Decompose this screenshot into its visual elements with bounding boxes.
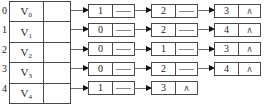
index-label: 0 <box>0 1 9 20</box>
list-node: 2 <box>151 23 198 37</box>
vertex-name: V <box>21 5 29 17</box>
vertex-subscript: 2 <box>29 52 33 60</box>
head-arrow <box>71 29 88 30</box>
pointer-stub <box>116 88 131 89</box>
vertex-subscript: 0 <box>29 11 33 19</box>
node-next-pointer <box>113 24 134 36</box>
head-pointer-cell <box>43 83 70 103</box>
node-next-pointer <box>113 5 134 17</box>
vertex-subscript: 1 <box>29 32 33 40</box>
vertex-subscript: 4 <box>29 93 33 101</box>
pointer-stub <box>116 30 131 31</box>
index-label: 2 <box>0 40 9 59</box>
node-data: 0 <box>89 63 113 75</box>
node-data: 1 <box>152 43 176 55</box>
node-arrow <box>134 68 151 69</box>
table-row: V1 <box>10 22 71 42</box>
list-node: 2 <box>151 4 198 18</box>
null-terminator: ∧ <box>239 43 260 55</box>
pointer-stub <box>179 11 194 12</box>
node-next-pointer <box>176 5 197 17</box>
list-node: 0 <box>88 42 135 56</box>
node-arrow <box>134 49 151 50</box>
head-arrow <box>71 88 88 89</box>
null-terminator: ∧ <box>239 24 260 36</box>
node-arrow <box>197 68 214 69</box>
list-node: 4 ∧ <box>214 62 261 76</box>
null-terminator: ∧ <box>176 82 197 94</box>
list-node: 4 ∧ <box>214 23 261 37</box>
head-arrow <box>71 68 88 69</box>
node-next-pointer <box>113 43 134 55</box>
list-node: 1 <box>88 4 135 18</box>
node-arrow <box>134 10 151 11</box>
node-data: 0 <box>89 43 113 55</box>
node-arrow <box>197 49 214 50</box>
index-label: 4 <box>0 79 9 98</box>
node-data: 3 <box>215 43 239 55</box>
vertex-name: V <box>21 46 29 58</box>
null-terminator: ∧ <box>239 5 260 17</box>
table-row: V0 <box>10 2 71 22</box>
node-next-pointer <box>113 82 134 94</box>
pointer-stub <box>116 11 131 12</box>
node-arrow <box>134 29 151 30</box>
list-node: 3 ∧ <box>151 81 198 95</box>
node-data: 1 <box>89 5 113 17</box>
pointer-stub <box>179 69 194 70</box>
node-data: 3 <box>152 82 176 94</box>
list-node: 0 <box>88 62 135 76</box>
node-data: 4 <box>215 63 239 75</box>
index-label: 1 <box>0 20 9 39</box>
node-next-pointer <box>176 63 197 75</box>
list-node: 3 ∧ <box>214 4 261 18</box>
head-pointer-cell <box>43 42 70 62</box>
vertex-name: V <box>21 87 29 99</box>
index-column: 0 1 2 3 4 <box>0 1 9 98</box>
node-data: 2 <box>152 24 176 36</box>
head-arrow <box>71 49 88 50</box>
list-node: 3 ∧ <box>214 42 261 56</box>
list-node: 2 <box>151 62 198 76</box>
list-node: 0 <box>88 23 135 37</box>
node-arrow <box>134 88 151 89</box>
table-row: V2 <box>10 42 71 62</box>
index-label: 3 <box>0 59 9 78</box>
node-next-pointer <box>113 63 134 75</box>
vertex-name: V <box>21 66 29 78</box>
head-pointer-cell <box>43 63 70 83</box>
node-arrow <box>197 10 214 11</box>
node-next-pointer <box>176 43 197 55</box>
head-pointer-cell <box>43 22 70 42</box>
table-row: V3 <box>10 63 71 83</box>
node-data: 4 <box>215 24 239 36</box>
vertex-subscript: 3 <box>29 72 33 80</box>
adjacency-list-diagram: 0 1 2 3 4 V0 V1 V2 V3 V4 1 <box>0 0 269 104</box>
vertex-cell: V3 <box>10 63 44 83</box>
null-terminator: ∧ <box>239 63 260 75</box>
head-arrow <box>71 10 88 11</box>
node-data: 1 <box>89 82 113 94</box>
vertex-cell: V2 <box>10 42 44 62</box>
head-pointer-cell <box>43 2 70 22</box>
vertex-head-table: V0 V1 V2 V3 V4 <box>9 1 71 104</box>
node-data: 0 <box>89 24 113 36</box>
pointer-stub <box>179 30 194 31</box>
vertex-cell: V1 <box>10 22 44 42</box>
vertex-cell: V4 <box>10 83 44 103</box>
pointer-stub <box>116 69 131 70</box>
list-node: 1 <box>151 42 198 56</box>
vertex-name: V <box>21 26 29 38</box>
node-data: 2 <box>152 63 176 75</box>
pointer-stub <box>116 49 131 50</box>
node-arrow <box>197 29 214 30</box>
node-data: 2 <box>152 5 176 17</box>
list-node: 1 <box>88 81 135 95</box>
node-next-pointer <box>176 24 197 36</box>
pointer-stub <box>179 49 194 50</box>
table-row: V4 <box>10 83 71 103</box>
node-data: 3 <box>215 5 239 17</box>
vertex-cell: V0 <box>10 2 44 22</box>
